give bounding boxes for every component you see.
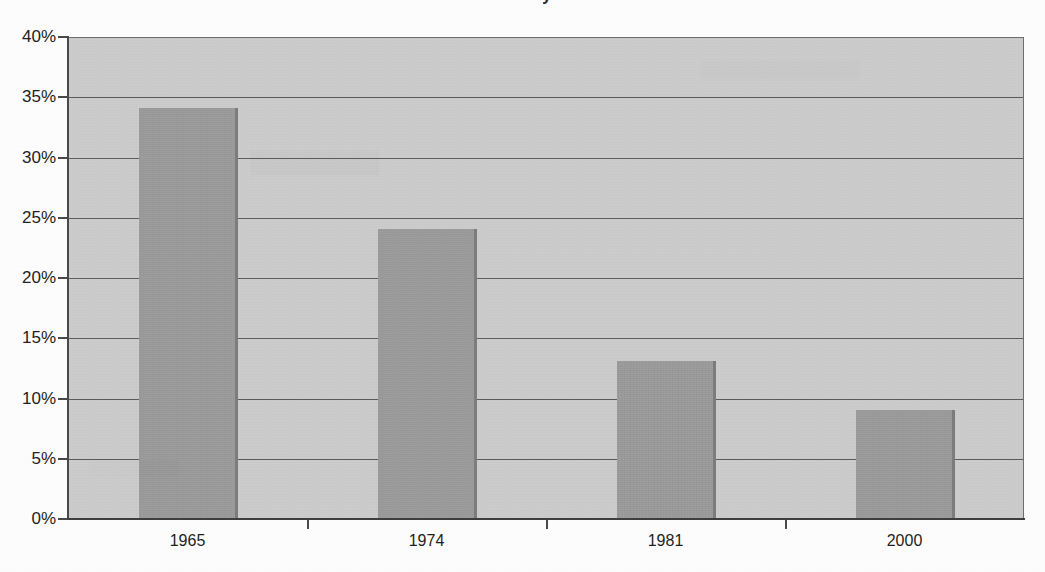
bar [378, 229, 477, 518]
chart-plot-area [68, 37, 1024, 519]
gridline [69, 97, 1023, 98]
y-axis-tick [58, 458, 68, 460]
y-axis-tick [58, 337, 68, 339]
y-axis-tick [58, 398, 68, 400]
bar [856, 410, 955, 518]
cropped-title-text: y [543, 0, 552, 4]
y-axis-tick [58, 217, 68, 219]
y-axis-tick [58, 157, 68, 159]
scanned-chart-page: y 40%35%30%25%20%15%10%5%0% 196519741981… [0, 0, 1045, 572]
y-axis-tick-label: 40% [2, 28, 56, 45]
x-axis-tick-label: 1974 [367, 532, 487, 550]
y-axis-tick-label: 25% [2, 209, 56, 226]
y-axis-tick-label: 30% [2, 149, 56, 166]
cropped-title-fragment: y [543, 0, 552, 4]
x-axis-tick [546, 520, 548, 529]
y-axis-tick [58, 518, 68, 520]
y-axis-tick-label: 10% [2, 390, 56, 407]
x-axis-tick-label: 1965 [128, 532, 248, 550]
y-axis-tick [58, 277, 68, 279]
y-axis-tick-label: 0% [2, 510, 56, 527]
bar [139, 108, 238, 518]
x-axis-tick-label: 1981 [606, 532, 726, 550]
y-axis-tick-label: 5% [2, 450, 56, 467]
bar [617, 361, 716, 518]
y-axis-tick-label: 15% [2, 329, 56, 346]
y-axis-tick-label: 35% [2, 88, 56, 105]
x-axis-tick [307, 520, 309, 529]
y-axis-tick [58, 36, 68, 38]
x-axis-tick-label: 2000 [845, 532, 965, 550]
y-axis-tick-label: 20% [2, 269, 56, 286]
x-axis-tick [785, 520, 787, 529]
y-axis-tick [58, 96, 68, 98]
